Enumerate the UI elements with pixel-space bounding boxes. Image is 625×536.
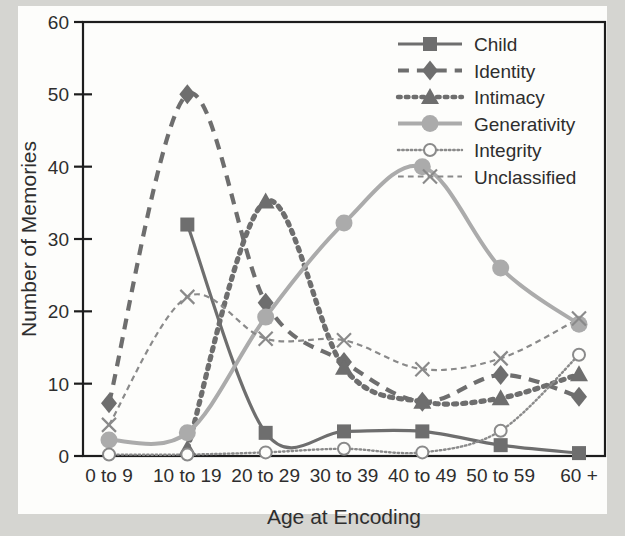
datapoint-generativity-2 — [257, 309, 274, 326]
figure-page: 0102030405060 0 to 910 to 1920 to 2930 t… — [0, 0, 625, 536]
datapoint-unclassified-2 — [259, 332, 273, 346]
datapoint-identity-0 — [101, 393, 117, 413]
legend-label-integrity: Integrity — [474, 140, 542, 161]
datapoint-generativity-4 — [414, 158, 431, 175]
x-tick-label-1: 10 to 19 — [153, 465, 222, 486]
datapoint-child-3 — [337, 424, 351, 438]
y-tick-label-30: 30 — [48, 229, 69, 250]
x-tick-label-2: 20 to 29 — [231, 465, 300, 486]
legend-label-unclassified: Unclassified — [474, 167, 576, 188]
datapoint-integrity-4 — [416, 446, 428, 458]
datapoint-child-6 — [572, 446, 586, 460]
datapoint-integrity-2 — [260, 446, 272, 458]
x-tick-label-3: 30 to 39 — [310, 465, 379, 486]
y-tick-label-50: 50 — [48, 84, 69, 105]
datapoint-unclassified-5 — [494, 351, 508, 365]
y-tick-label-40: 40 — [48, 157, 69, 178]
series-line-intimacy — [187, 201, 579, 449]
legend-label-child: Child — [474, 34, 517, 55]
datapoint-child-1 — [180, 218, 194, 232]
datapoint-integrity-3 — [338, 443, 350, 455]
y-tick-label-0: 0 — [58, 446, 69, 467]
x-tick-label-4: 40 to 49 — [388, 465, 457, 486]
datapoint-unclassified-0 — [102, 418, 116, 432]
y-axis-tick-labels: 0102030405060 — [48, 12, 69, 467]
datapoint-unclassified-1 — [180, 290, 194, 304]
legend-label-identity: Identity — [474, 61, 536, 82]
series-line-child — [187, 225, 579, 454]
legend-marker-identity — [422, 61, 438, 81]
legend-marker-integrity — [424, 144, 436, 156]
x-axis-tick-labels: 0 to 910 to 1920 to 2930 to 3940 to 4950… — [85, 465, 598, 486]
datapoint-integrity-5 — [495, 425, 507, 437]
x-tick-label-0: 0 to 9 — [85, 465, 133, 486]
datapoint-integrity-1 — [181, 449, 193, 461]
legend-label-intimacy: Intimacy — [474, 87, 545, 108]
line-chart: 0102030405060 0 to 910 to 1920 to 2930 t… — [0, 0, 625, 536]
datapoint-integrity-6 — [573, 349, 585, 361]
datapoint-child-4 — [415, 424, 429, 438]
series-line-generativity — [109, 166, 579, 444]
y-tick-label-60: 60 — [48, 12, 69, 33]
y-tick-label-10: 10 — [48, 374, 69, 395]
datapoint-identity-5 — [493, 365, 509, 385]
datapoint-child-5 — [494, 438, 508, 452]
datapoint-generativity-1 — [179, 424, 196, 441]
datapoint-generativity-3 — [336, 215, 353, 232]
legend-marker-child — [423, 37, 437, 51]
datapoint-generativity-0 — [101, 432, 118, 449]
datapoint-unclassified-4 — [415, 362, 429, 376]
datapoint-integrity-0 — [103, 449, 115, 461]
datapoint-intimacy-6 — [570, 365, 588, 381]
x-tick-label-6: 60 + — [560, 465, 598, 486]
y-axis-title: Number of Memories — [17, 141, 40, 337]
y-tick-label-20: 20 — [48, 301, 69, 322]
legend-marker-generativity — [422, 115, 439, 132]
legend-label-generativity: Generativity — [474, 114, 576, 135]
datapoint-generativity-5 — [492, 259, 509, 276]
x-tick-label-5: 50 to 59 — [466, 465, 535, 486]
x-axis-title: Age at Encoding — [267, 505, 421, 528]
datapoint-identity-6 — [571, 387, 587, 407]
datapoint-child-2 — [259, 426, 273, 440]
